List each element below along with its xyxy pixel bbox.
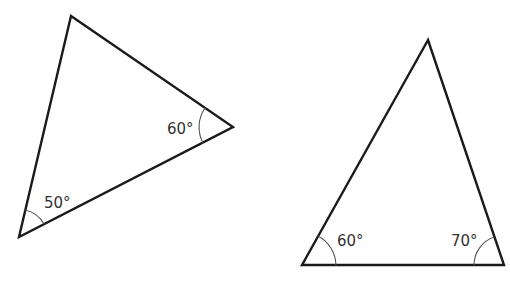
triangle-right: 60° 70° — [302, 40, 504, 265]
angle-arc-left-60 — [199, 108, 205, 143]
angle-label-right-60: 60° — [337, 232, 364, 250]
angle-label-left-50: 50° — [44, 194, 71, 212]
triangles-diagram: 60° 50° 60° 70° — [0, 0, 510, 290]
angle-arc-right-60 — [318, 236, 336, 265]
angle-label-right-70: 70° — [451, 232, 478, 250]
triangle-left: 60° 50° — [19, 16, 233, 237]
angle-label-left-60: 60° — [167, 120, 194, 138]
angle-arc-left-50 — [25, 210, 44, 224]
